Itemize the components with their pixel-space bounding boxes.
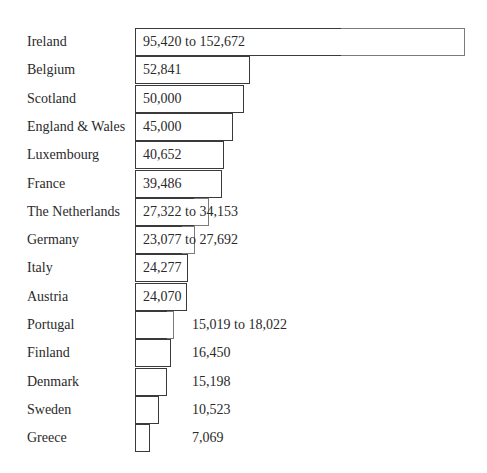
bar-row: Greece7,069 <box>0 424 487 452</box>
value-label: 45,000 <box>143 119 182 135</box>
bar-row: France39,486 <box>0 170 487 198</box>
bar-row: Ireland95,420 to 152,672 <box>0 28 487 56</box>
bar-row: The Netherlands27,322 to 34,153 <box>0 198 487 226</box>
bar-low <box>135 368 167 396</box>
bar-row: England & Wales45,000 <box>0 113 487 141</box>
value-label: 52,841 <box>143 62 182 78</box>
value-label: 23,077 to 27,692 <box>143 232 238 248</box>
category-label: Scotland <box>27 91 76 107</box>
value-label: 7,069 <box>192 430 224 446</box>
value-label: 95,420 to 152,672 <box>143 34 245 50</box>
value-label: 24,070 <box>143 289 182 305</box>
category-label: Greece <box>27 430 67 446</box>
bar-low <box>135 396 159 424</box>
bar-low <box>135 311 168 339</box>
value-label: 40,652 <box>143 147 182 163</box>
category-label: Sweden <box>27 402 71 418</box>
value-label: 39,486 <box>143 176 182 192</box>
bar-row: Portugal15,019 to 18,022 <box>0 311 487 339</box>
value-label: 24,277 <box>143 260 182 276</box>
value-label: 16,450 <box>192 345 231 361</box>
category-label: Austria <box>27 289 68 305</box>
value-label: 10,523 <box>192 402 231 418</box>
category-label: Ireland <box>27 34 67 50</box>
category-label: Germany <box>27 232 79 248</box>
bar-row: Finland16,450 <box>0 339 487 367</box>
bar-row: Denmark15,198 <box>0 368 487 396</box>
category-label: England & Wales <box>27 119 125 135</box>
value-label: 50,000 <box>143 91 182 107</box>
bar-row: Belgium52,841 <box>0 56 487 84</box>
bar-range-extension <box>167 311 174 339</box>
value-label: 15,198 <box>192 374 231 390</box>
bar-range-extension <box>341 28 465 56</box>
bar-row: Luxembourg40,652 <box>0 141 487 169</box>
bar-row: Italy24,277 <box>0 254 487 282</box>
category-label: The Netherlands <box>27 204 120 220</box>
category-label: Denmark <box>27 374 79 390</box>
bar-row: Scotland50,000 <box>0 85 487 113</box>
category-label: Finland <box>27 345 70 361</box>
value-label: 27,322 to 34,153 <box>143 204 238 220</box>
bar-low <box>135 339 171 367</box>
value-label: 15,019 to 18,022 <box>192 317 287 333</box>
bar-low <box>135 424 150 452</box>
bar-row: Sweden10,523 <box>0 396 487 424</box>
category-label: France <box>27 176 65 192</box>
category-label: Italy <box>27 260 53 276</box>
category-label: Luxembourg <box>27 147 99 163</box>
bar-row: Austria24,070 <box>0 283 487 311</box>
category-label: Belgium <box>27 62 75 78</box>
category-label: Portugal <box>27 317 74 333</box>
bar-row: Germany23,077 to 27,692 <box>0 226 487 254</box>
